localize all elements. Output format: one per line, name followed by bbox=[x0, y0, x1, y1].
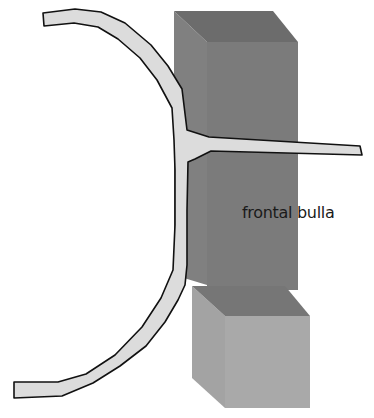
upper-box-front-face bbox=[207, 42, 298, 290]
frontal-bulla-label: frontal bulla bbox=[242, 203, 335, 222]
lower-box-front-face bbox=[225, 316, 310, 408]
lower-box bbox=[192, 286, 310, 408]
